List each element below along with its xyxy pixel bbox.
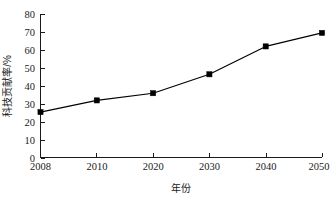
data-point-marker <box>319 30 324 35</box>
y-tick-label: 50 <box>25 63 36 74</box>
y-tick-label: 60 <box>25 45 36 56</box>
y-tick-label: 70 <box>25 27 36 38</box>
x-tick-label: 2050 <box>309 161 330 172</box>
x-tick-label: 2040 <box>256 161 277 172</box>
y-axis-tick-labels: 0 10 20 30 40 50 60 70 80 <box>25 9 36 164</box>
y-tick-label: 10 <box>25 135 36 146</box>
y-tick-label: 30 <box>25 99 36 110</box>
y-axis-title: 科技贡献率/% <box>1 55 13 117</box>
data-point-marker <box>207 72 212 77</box>
data-point-marker <box>94 98 99 103</box>
y-tick-label: 80 <box>25 9 36 20</box>
data-point-marker <box>151 91 156 96</box>
x-tick-label: 2020 <box>143 161 164 172</box>
x-axis-tick-labels: 2008 2010 2020 2030 2040 2050 <box>30 161 330 172</box>
x-axis-title: 年份 <box>171 182 191 194</box>
chart-canvas: 0 10 20 30 40 50 60 70 80 2008 2010 2020… <box>0 0 334 201</box>
x-tick-label: 2030 <box>199 161 220 172</box>
plot-area-background <box>40 14 322 158</box>
data-point-marker <box>38 110 43 115</box>
line-chart-figure: 0 10 20 30 40 50 60 70 80 2008 2010 2020… <box>0 0 334 201</box>
x-tick-label: 2008 <box>30 161 51 172</box>
y-tick-label: 40 <box>25 81 36 92</box>
y-tick-label: 20 <box>25 117 36 128</box>
data-point-marker <box>263 44 268 49</box>
x-tick-label: 2010 <box>86 161 107 172</box>
